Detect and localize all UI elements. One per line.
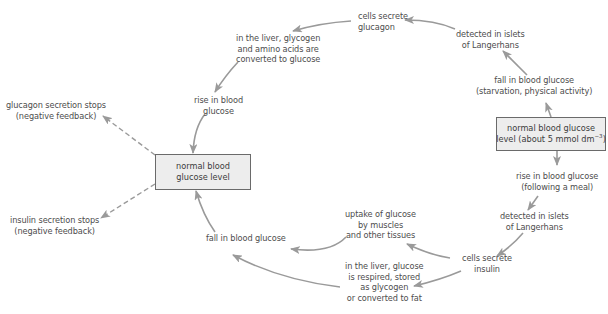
arrow-detected-to-glucagon	[405, 20, 455, 29]
normal-glucose-box-right: normal blood glucose level (about 5 mmol…	[496, 117, 606, 151]
normal-glucose-right-line2: level (about 5 mmol dm−3)	[496, 134, 606, 145]
arrow-fall-to-detected-top	[503, 51, 527, 75]
arrow-uptake-to-fall	[291, 237, 346, 250]
arrow-rise-meal-to-detected-bottom	[528, 196, 538, 210]
label-uptake-of-glucose: uptake of glucose by muscles and other t…	[345, 209, 416, 241]
arrow-fall-to-left-box	[196, 191, 215, 232]
label-rise-following-meal: rise in blood glucose (following a meal)	[516, 171, 598, 192]
arrow-glucagon-to-liver	[293, 21, 351, 31]
arrow-rise-to-left-box	[193, 114, 205, 153]
dashed-arrow-to-insulin-stops	[101, 184, 155, 218]
label-detected-islets-bottom: detected in islets of Langerhans	[500, 211, 569, 232]
normal-glucose-box-left: normal blood glucose level	[155, 154, 251, 190]
label-cells-secrete-glucagon: cells secrete glucagon	[358, 11, 408, 32]
label-fall-in-blood-glucose: fall in blood glucose	[206, 233, 286, 244]
unit-superscript: −3	[595, 133, 603, 139]
normal-glucose-left-text: normal blood glucose level	[176, 161, 230, 183]
label-detected-islets-top: detected in islets of Langerhans	[456, 29, 525, 50]
concentration-prefix: level (about 5 mmol dm	[496, 134, 594, 144]
label-liver-glycogen: in the liver, glycogen and amino acids a…	[236, 33, 320, 65]
glucose-regulation-diagram: normal blood glucose level normal blood …	[0, 0, 608, 314]
arrow-liver-to-rise	[215, 62, 238, 92]
label-insulin-secretion-stops: insulin secretion stops (negative feedba…	[10, 215, 99, 236]
label-cells-secrete-insulin: cells secrete insulin	[462, 253, 512, 274]
label-liver-glucose: in the liver, glucose is respired, store…	[345, 261, 423, 303]
arrow-insulin-to-uptake	[407, 244, 450, 258]
label-rise-in-blood-glucose: rise in blood glucose	[194, 95, 243, 116]
dashed-arrow-to-glucagon-stops	[103, 116, 155, 155]
arrow-liver-glucose-to-fall	[233, 255, 340, 287]
label-glucagon-secretion-stops: glucagon secretion stops (negative feedb…	[6, 100, 106, 121]
arrow-right-box-to-fall-starvation	[546, 103, 551, 117]
label-fall-starvation: fall in blood glucose (starvation, physi…	[476, 75, 592, 96]
concentration-suffix: )	[603, 134, 606, 144]
normal-glucose-right-line1: normal blood glucose	[507, 123, 595, 134]
